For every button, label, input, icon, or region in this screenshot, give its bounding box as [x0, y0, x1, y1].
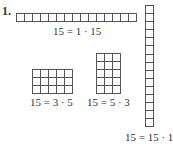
- grid-cell: [81, 14, 89, 22]
- grid-cell: [97, 14, 105, 22]
- grid-cell: [105, 54, 113, 62]
- grid-cell: [146, 14, 154, 22]
- grid-cell: [65, 70, 73, 78]
- grid-cell: [17, 14, 25, 22]
- grid-cell: [97, 86, 105, 94]
- grid-cell: [146, 38, 154, 46]
- grid-cell: [41, 14, 49, 22]
- grid-cell: [65, 14, 73, 22]
- grid-cell: [146, 111, 154, 119]
- grid-cell: [57, 14, 65, 22]
- grid-cell: [97, 54, 105, 62]
- grid-cell: [49, 78, 57, 86]
- grid-cell: [33, 86, 41, 94]
- grid-cell: [146, 30, 154, 38]
- grid-cell: [49, 86, 57, 94]
- grid-cell: [113, 78, 121, 86]
- grid-5x3: [96, 53, 121, 94]
- grid-cell: [146, 22, 154, 30]
- grid-cell: [113, 70, 121, 78]
- grid-cell: [105, 14, 113, 22]
- grid-cell: [105, 70, 113, 78]
- grid-cell: [113, 54, 121, 62]
- grid-cell: [146, 119, 154, 127]
- grid-3x5: [32, 69, 73, 94]
- grid-cell: [146, 6, 154, 14]
- grid-cell: [89, 14, 97, 22]
- grid-cell: [25, 14, 33, 22]
- grid-cell: [41, 70, 49, 78]
- grid-cell: [105, 86, 113, 94]
- label-5x3: 15 = 5 · 3: [87, 96, 130, 108]
- label-15x1: 15 = 15 · 1: [125, 131, 173, 143]
- grid-cell: [105, 62, 113, 70]
- grid-cell: [146, 95, 154, 103]
- grid-cell: [97, 62, 105, 70]
- grid-cell: [65, 78, 73, 86]
- grid-cell: [65, 86, 73, 94]
- grid-cell: [49, 70, 57, 78]
- grid-cell: [146, 103, 154, 111]
- grid-cell: [105, 78, 113, 86]
- grid-cell: [146, 63, 154, 71]
- grid-cell: [57, 70, 65, 78]
- grid-cell: [41, 78, 49, 86]
- grid-cell: [146, 71, 154, 79]
- grid-cell: [57, 86, 65, 94]
- grid-cell: [146, 87, 154, 95]
- grid-1x15: [16, 13, 137, 22]
- grid-cell: [146, 79, 154, 87]
- grid-cell: [146, 55, 154, 63]
- grid-15x1: [145, 5, 154, 127]
- grid-cell: [121, 14, 129, 22]
- grid-cell: [113, 86, 121, 94]
- grid-cell: [57, 78, 65, 86]
- grid-cell: [33, 78, 41, 86]
- grid-cell: [146, 46, 154, 54]
- grid-cell: [97, 78, 105, 86]
- label-1x15: 15 = 1 · 15: [53, 25, 101, 37]
- grid-cell: [33, 14, 41, 22]
- grid-cell: [129, 14, 137, 22]
- grid-cell: [113, 14, 121, 22]
- grid-cell: [33, 70, 41, 78]
- grid-cell: [113, 62, 121, 70]
- grid-cell: [41, 86, 49, 94]
- grid-cell: [97, 70, 105, 78]
- label-3x5: 15 = 3 · 5: [30, 96, 73, 108]
- problem-number: 1.: [2, 4, 11, 19]
- grid-cell: [49, 14, 57, 22]
- grid-cell: [73, 14, 81, 22]
